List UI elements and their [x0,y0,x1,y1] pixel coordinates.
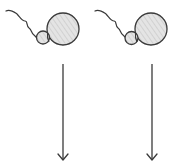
arrow-down-icon [147,64,157,160]
tail-icon [6,10,37,38]
large-circle-icon [47,13,79,45]
diagram-canvas [0,0,174,168]
arrow-down-icon [58,64,68,160]
tail-icon [95,10,126,38]
sperm-cell-right [95,10,167,45]
sperm-cell-left [6,10,79,45]
large-circle-icon [135,13,167,45]
